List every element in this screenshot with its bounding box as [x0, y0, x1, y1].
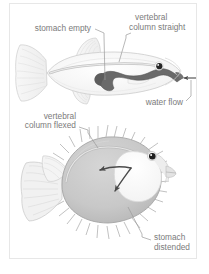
caudal-fin-top	[16, 45, 47, 101]
inflated-fish-group	[21, 125, 176, 239]
label-stomach-distended-line2: distended	[154, 242, 190, 252]
label-stomach-distended-line1: stomach	[154, 232, 186, 242]
label-water-flow-text: water flow	[145, 97, 184, 107]
figure-illustration: stomach empty vertebral column straight …	[0, 0, 209, 274]
eye-bottom	[147, 151, 156, 160]
figure-container: stomach empty vertebral column straight …	[0, 0, 209, 274]
label-vertebral-flexed-line2: column flexed	[25, 120, 77, 130]
label-vertebral-straight-line1: vertebral	[135, 12, 167, 22]
label-stomach-empty-text: stomach empty	[35, 23, 92, 33]
uninflated-fish-group	[16, 38, 196, 104]
label-vertebral-straight-line2: column straight	[129, 22, 186, 32]
eye-top	[155, 62, 163, 70]
